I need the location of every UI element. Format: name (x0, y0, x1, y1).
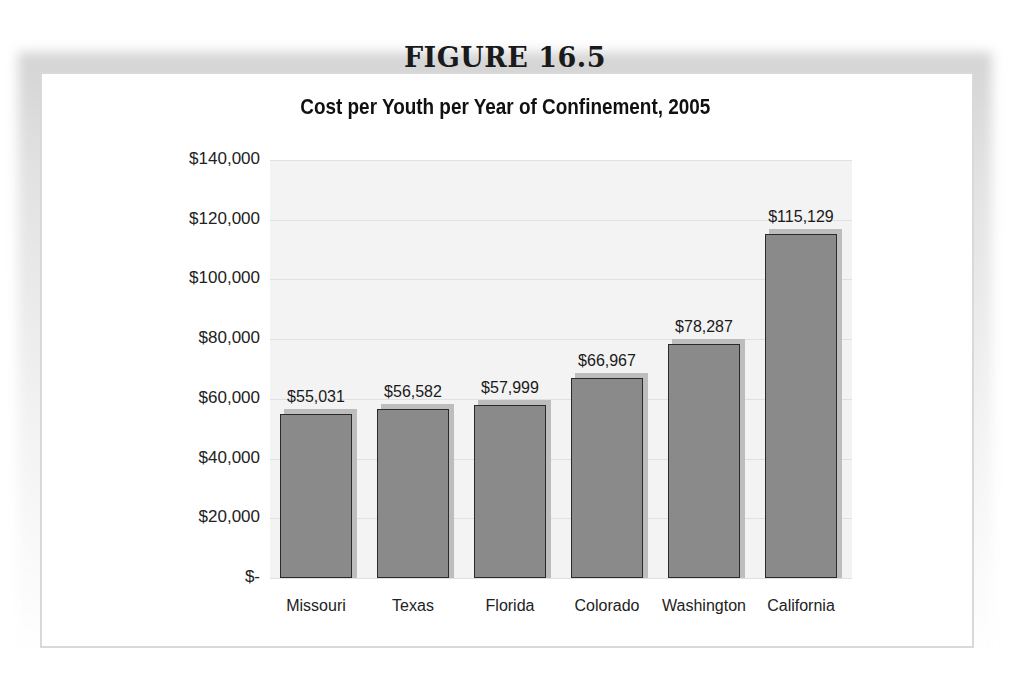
y-tick-label: $60,000 (140, 388, 260, 408)
gridline (270, 578, 852, 579)
bar-california (765, 229, 837, 578)
data-label: $115,129 (741, 207, 861, 227)
y-tick-label: $80,000 (140, 328, 260, 348)
y-tick-label: $120,000 (140, 209, 260, 229)
bar (280, 414, 352, 578)
bar (765, 234, 837, 578)
bar (377, 409, 449, 578)
bar-washington (668, 339, 740, 578)
bar (571, 378, 643, 578)
x-tick-label: California (741, 596, 861, 616)
bar-texas (377, 404, 449, 578)
data-label: $78,287 (644, 317, 764, 337)
gridline (270, 160, 852, 161)
y-tick-label: $100,000 (140, 268, 260, 288)
bar-florida (474, 400, 546, 578)
y-tick-label: $140,000 (140, 149, 260, 169)
bar-colorado (571, 373, 643, 578)
bar-missouri (280, 409, 352, 578)
y-tick-label: $- (140, 567, 260, 587)
y-tick-label: $20,000 (140, 507, 260, 527)
bar (474, 405, 546, 578)
y-tick-label: $40,000 (140, 448, 260, 468)
data-label: $66,967 (547, 351, 667, 371)
data-label: $57,999 (450, 378, 570, 398)
chart-title: Cost per Youth per Year of Confinement, … (71, 92, 940, 122)
bar (668, 344, 740, 578)
figure-label: FIGURE 16.5 (0, 40, 1010, 76)
